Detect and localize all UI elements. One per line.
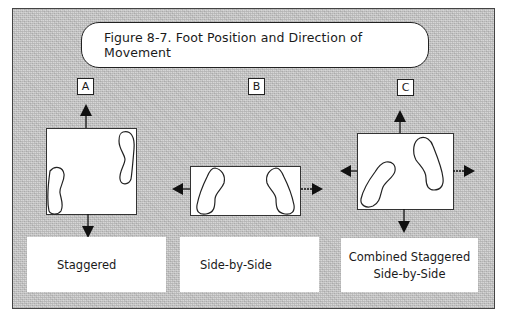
caption-b-line-1: Side-by-Side	[200, 258, 319, 272]
panel-b-label: B	[248, 78, 265, 95]
caption-c-line-2: Side-by-Side	[374, 267, 446, 281]
panel-b-foot-diagram	[190, 166, 301, 216]
panel-c-foot-diagram	[357, 133, 454, 210]
arrow-down-icon	[80, 214, 96, 238]
panel-a-foot-diagram	[46, 128, 137, 215]
arrow-right-icon	[453, 164, 475, 178]
figure-title-box: Figure 8-7. Foot Position and Direction …	[81, 22, 429, 68]
caption-a-line-1: Staggered	[57, 258, 166, 272]
arrow-up-icon	[78, 104, 94, 128]
caption-side-by-side: Side-by-Side	[180, 237, 319, 292]
arrow-down-icon	[396, 209, 412, 233]
panel-c-label: C	[397, 79, 414, 96]
footprints-combined-icon	[358, 134, 455, 211]
caption-combined: Combined Staggered Side-by-Side	[341, 238, 478, 292]
footprints-staggered-icon	[47, 129, 138, 216]
caption-c-line-1: Combined Staggered	[349, 250, 470, 264]
arrow-left-icon	[172, 182, 192, 196]
arrow-up-icon	[392, 110, 408, 134]
panel-a-label: A	[77, 78, 94, 95]
caption-staggered: Staggered	[27, 237, 166, 292]
figure-title: Figure 8-7. Foot Position and Direction …	[104, 30, 428, 60]
arrow-right-icon	[301, 182, 323, 196]
footprints-side-by-side-icon	[191, 167, 302, 217]
